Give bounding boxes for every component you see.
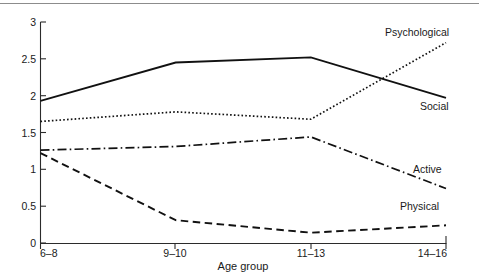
x-tick-label-9-10: 9–10 xyxy=(163,247,187,259)
series-label-psychological: Psychological xyxy=(385,26,449,38)
series-line-psychological xyxy=(41,43,447,122)
x-tick-label-14-16: 14–16 xyxy=(418,247,447,259)
series-labels: Psychological Social Active Physical xyxy=(385,26,449,212)
y-tick-label-0.5: 0.5 xyxy=(21,200,36,212)
y-tick-label-2: 2 xyxy=(30,90,36,102)
series-line-physical xyxy=(41,153,447,233)
series-label-physical: Physical xyxy=(400,200,439,212)
series-label-active: Active xyxy=(413,163,442,175)
y-tick-label-0: 0 xyxy=(30,237,36,249)
series-line-social xyxy=(41,57,447,100)
figure-container: 3 2.5 2 1.5 1 0.5 0 6–8 9–10 11–13 14–16… xyxy=(0,0,479,275)
x-tick-label-11-13: 11–13 xyxy=(297,247,326,259)
y-tick-label-1: 1 xyxy=(30,163,36,175)
series-label-social: Social xyxy=(420,100,449,112)
series-line-active xyxy=(41,137,447,189)
y-tick-marks xyxy=(41,22,47,243)
x-tick-labels: 6–8 9–10 11–13 14–16 xyxy=(40,247,447,259)
x-tick-marks xyxy=(41,244,447,250)
x-tick-label-6-8: 6–8 xyxy=(40,247,58,259)
series-group xyxy=(41,43,447,233)
line-chart: 3 2.5 2 1.5 1 0.5 0 6–8 9–10 11–13 14–16… xyxy=(0,0,479,275)
y-tick-label-2.5: 2.5 xyxy=(21,53,36,65)
y-tick-label-3: 3 xyxy=(30,16,36,28)
x-axis-title: Age group xyxy=(218,260,269,272)
axes-group xyxy=(40,22,447,244)
y-tick-labels: 3 2.5 2 1.5 1 0.5 0 xyxy=(21,16,36,249)
y-tick-label-1.5: 1.5 xyxy=(21,127,36,139)
